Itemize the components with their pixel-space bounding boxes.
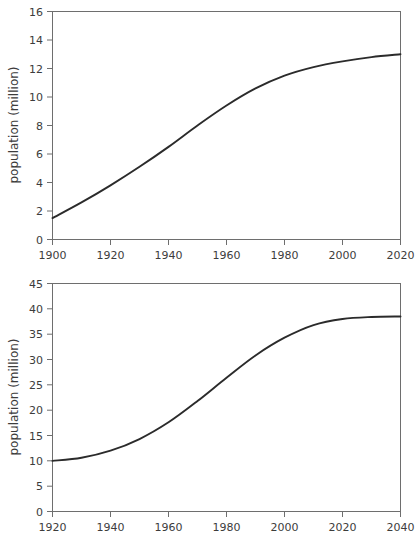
bottom-x-tick-label: 2040: [387, 521, 415, 534]
bottom-y-tick-label: 40: [29, 303, 43, 316]
bottom-y-tick-label: 45: [29, 278, 43, 291]
top-plot-frame: [53, 12, 401, 240]
top-y-ticks: [47, 12, 53, 240]
top-chart-canvas: 16 14 12 10 8 6 4 2 0 1900 1920 1940 196…: [0, 0, 418, 275]
top-y-tick-label: 10: [29, 91, 43, 104]
top-y-tick-label: 0: [36, 234, 43, 247]
bottom-chart-figure: 45 40 35 30 25 20 15 10 5 0 1920 1940 19…: [0, 272, 418, 545]
top-population-curve: [53, 54, 401, 218]
bottom-y-axis-title: population (million): [7, 338, 21, 455]
bottom-y-tick-label: 20: [29, 404, 43, 417]
top-x-tick-label: 2000: [329, 249, 357, 262]
top-x-tick-label: 1940: [155, 249, 183, 262]
bottom-y-ticks: [47, 284, 53, 512]
bottom-x-tick-label: 1920: [39, 521, 67, 534]
bottom-y-tick-label: 30: [29, 354, 43, 367]
top-x-ticks: [53, 240, 401, 246]
top-y-tick-label: 12: [29, 63, 43, 76]
top-y-tick-label: 6: [36, 148, 43, 161]
top-y-axis-title: population (million): [7, 66, 21, 183]
top-y-tick-label: 4: [36, 177, 43, 190]
bottom-y-tick-label: 10: [29, 455, 43, 468]
top-x-tick-label: 2020: [387, 249, 415, 262]
bottom-y-tick-label: 15: [29, 430, 43, 443]
bottom-x-tick-label: 2020: [329, 521, 357, 534]
bottom-x-ticks: [53, 512, 401, 518]
bottom-y-tick-label: 25: [29, 379, 43, 392]
top-y-tick-label: 16: [29, 6, 43, 19]
top-x-tick-label: 1980: [271, 249, 299, 262]
top-chart-figure: 16 14 12 10 8 6 4 2 0 1900 1920 1940 196…: [0, 0, 418, 275]
bottom-x-tick-label: 1940: [97, 521, 125, 534]
top-y-tick-label: 8: [36, 120, 43, 133]
bottom-population-curve: [53, 316, 401, 460]
bottom-chart-canvas: 45 40 35 30 25 20 15 10 5 0 1920 1940 19…: [0, 272, 418, 545]
bottom-y-tick-label: 5: [36, 480, 43, 493]
top-y-tick-label: 2: [36, 205, 43, 218]
bottom-y-tick-label: 35: [29, 328, 43, 341]
bottom-x-tick-label: 1960: [155, 521, 183, 534]
bottom-y-tick-label: 0: [36, 506, 43, 519]
top-y-tick-label: 14: [29, 34, 43, 47]
top-x-tick-label: 1920: [97, 249, 125, 262]
bottom-x-tick-label: 1980: [213, 521, 241, 534]
top-x-tick-label: 1900: [39, 249, 67, 262]
top-x-tick-label: 1960: [213, 249, 241, 262]
bottom-x-tick-label: 2000: [271, 521, 299, 534]
